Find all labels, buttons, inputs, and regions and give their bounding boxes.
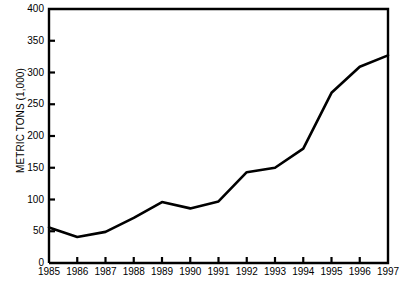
data-series-line (49, 55, 388, 237)
plot-area (0, 0, 402, 290)
x-tick-label: 1997 (368, 266, 402, 278)
x-axis-tick-labels: 1985198619871988198919901991199219931994… (0, 266, 402, 282)
axis-frame (49, 9, 388, 263)
line-chart: METRIC TONS (1,000) 05010015020025030035… (0, 0, 402, 290)
